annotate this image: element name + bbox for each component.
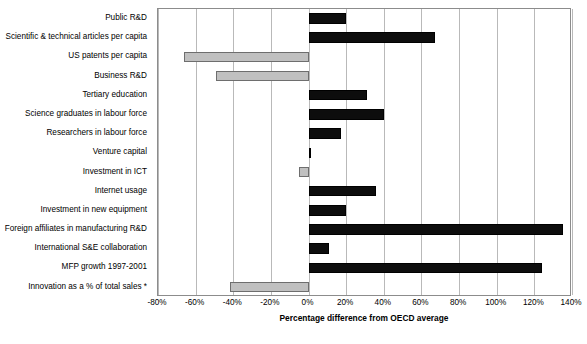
x-axis-tick-labels: -80%-60%-40%-20%0%20%40%60%80%100%120%14…: [157, 298, 571, 312]
bar-row: [158, 124, 570, 143]
bar: [309, 243, 330, 254]
plot-area: [157, 8, 571, 296]
category-label: Investment in new equipment: [0, 200, 152, 219]
category-label: Business R&D: [0, 66, 152, 85]
category-label: Venture capital: [0, 142, 152, 161]
category-label: Internet usage: [0, 181, 152, 200]
category-label: International S&E collaboration: [0, 238, 152, 257]
category-label: MFP growth 1997-2001: [0, 257, 152, 276]
x-tick-label: 40%: [375, 298, 391, 307]
bar-row: [158, 201, 570, 220]
bar: [309, 148, 311, 159]
gridline: [572, 9, 573, 295]
x-tick-label: -20%: [260, 298, 279, 307]
bar-row: [158, 163, 570, 182]
bar-row: [158, 105, 570, 124]
bar: [309, 263, 542, 274]
bar-row: [158, 28, 570, 47]
x-tick-label: -60%: [185, 298, 204, 307]
category-label: Scientific & technical articles per capi…: [0, 27, 152, 46]
x-axis-title: Percentage difference from OECD average: [157, 313, 571, 323]
x-tick-label: -80%: [147, 298, 166, 307]
bar: [230, 282, 309, 293]
bar: [309, 128, 341, 139]
category-label: Public R&D: [0, 8, 152, 27]
bar-row: [158, 239, 570, 258]
bar: [309, 109, 384, 120]
bar: [309, 205, 347, 216]
bar: [309, 90, 367, 101]
bar-row: [158, 9, 570, 28]
bar-row: [158, 220, 570, 239]
bar-chart: Public R&DScientific & technical article…: [0, 0, 587, 344]
x-tick-label: 0%: [302, 298, 314, 307]
bar: [216, 71, 308, 82]
category-label: Science graduates in labour force: [0, 104, 152, 123]
bar-row: [158, 258, 570, 277]
x-tick-label: 120%: [523, 298, 544, 307]
category-label: Researchers in labour force: [0, 123, 152, 142]
bar-row: [158, 67, 570, 86]
x-tick-label: 80%: [450, 298, 466, 307]
category-label: Foreign affiliates in manufacturing R&D: [0, 219, 152, 238]
bar: [309, 186, 377, 197]
bar: [299, 167, 308, 178]
bar-row: [158, 47, 570, 66]
bar: [309, 224, 563, 235]
category-label: US patents per capita: [0, 46, 152, 65]
x-tick-label: 140%: [561, 298, 582, 307]
category-label: Innovation as a % of total sales *: [0, 277, 152, 296]
x-tick-label: 100%: [485, 298, 506, 307]
bar: [309, 32, 435, 43]
x-tick-label: -40%: [223, 298, 242, 307]
category-axis-labels: Public R&DScientific & technical article…: [0, 8, 152, 296]
bar: [184, 52, 308, 63]
bar-row: [158, 143, 570, 162]
bar-row: [158, 86, 570, 105]
category-label: Tertiary education: [0, 85, 152, 104]
bar: [309, 13, 347, 24]
bar-row: [158, 182, 570, 201]
x-tick-label: 60%: [412, 298, 428, 307]
bar-row: [158, 278, 570, 297]
bar-series: [158, 9, 570, 295]
category-label: Investment in ICT: [0, 162, 152, 181]
x-tick-label: 20%: [337, 298, 353, 307]
